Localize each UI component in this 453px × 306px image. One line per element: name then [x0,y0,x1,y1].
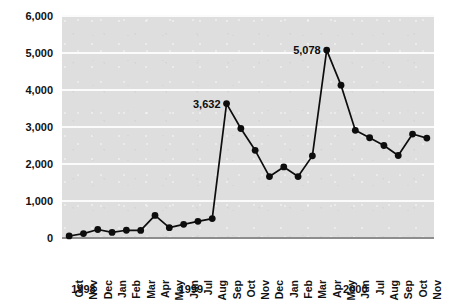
data-point [309,152,316,159]
data-point [180,221,187,228]
y-axis-tick-label: 6,000 [1,10,53,22]
data-point [223,100,230,107]
y-axis-tick-label: 0 [1,232,53,244]
y-axis-tick-label: 2,000 [1,158,53,170]
data-point [166,224,173,231]
data-point [137,227,144,234]
data-point [338,82,345,89]
line-chart: 01,0002,0003,0004,0005,0006,000 3,6325,0… [0,0,453,306]
y-axis-tick-label: 1,000 [1,195,53,207]
data-point [66,233,73,240]
data-point [94,226,101,233]
data-point [352,127,359,134]
x-axis: OctNovDecJanFebMarAprMayJunJulAugSepOctN… [62,240,434,282]
data-point [423,135,430,142]
data-point [209,215,216,222]
data-point [295,173,302,180]
plot-area: 3,6325,078 [62,16,434,238]
year-group-label: 1999 [179,283,203,295]
series-line [69,50,427,236]
data-point [395,152,402,159]
data-point [409,131,416,138]
data-point [123,227,130,234]
year-group-label: 1998 [71,283,95,295]
data-point [109,229,116,236]
data-point [252,147,259,154]
data-point [381,142,388,149]
data-point [195,218,202,225]
y-axis-tick-label: 5,000 [1,47,53,59]
data-point-value-label: 5,078 [293,44,321,56]
data-point [280,164,287,171]
data-point [237,125,244,132]
y-axis-tick-label: 3,000 [1,121,53,133]
y-axis: 01,0002,0003,0004,0005,0006,000 [0,0,58,306]
data-point [152,212,159,219]
series-graphic [62,16,434,238]
data-point-value-label: 3,632 [193,98,221,110]
data-point [80,230,87,237]
data-point [366,134,373,141]
year-group-label: 2000 [343,283,367,295]
data-point [266,173,273,180]
y-axis-tick-label: 4,000 [1,84,53,96]
data-point [323,47,330,54]
year-axis: 199819992000 [62,283,434,303]
